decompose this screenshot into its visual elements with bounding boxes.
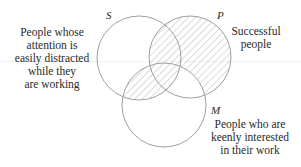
label-s-line: are working	[8, 78, 96, 91]
label-m-line: keenly interested	[204, 131, 296, 144]
label-p-line: people	[226, 38, 286, 51]
label-p-line: Successful	[226, 25, 286, 38]
label-s-line: while they	[8, 65, 96, 78]
label-p: Successful people	[226, 25, 286, 51]
label-s-line: People whose	[8, 26, 96, 39]
set-letter-p: P	[217, 9, 224, 21]
label-s: People whose attention is easily distrac…	[8, 26, 96, 91]
label-m: People who are keenly interested in thei…	[204, 118, 296, 157]
label-m-line: in their work	[204, 144, 296, 157]
label-m-line: People who are	[204, 118, 296, 131]
label-s-line: attention is	[8, 39, 96, 52]
set-letter-s: S	[106, 9, 112, 21]
label-s-line: easily distracted	[8, 52, 96, 65]
set-letter-m: M	[211, 104, 220, 116]
